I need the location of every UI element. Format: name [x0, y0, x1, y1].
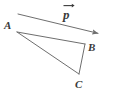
vector-label-p: p — [63, 8, 70, 21]
figure-canvas — [0, 0, 116, 96]
triangle-edge-ab — [17, 32, 85, 44]
triangle-edge-ac — [17, 32, 79, 74]
vertex-label-c: C — [75, 79, 82, 90]
geometry-figure: A B C p — [0, 0, 116, 96]
vertex-label-b: B — [88, 42, 95, 53]
vector-p-line — [18, 14, 98, 33]
triangle-edge-bc — [79, 44, 85, 74]
vertex-label-a: A — [4, 20, 11, 31]
vector-label-text: p — [63, 7, 70, 22]
vector-accent-arrow-icon — [63, 3, 75, 8]
